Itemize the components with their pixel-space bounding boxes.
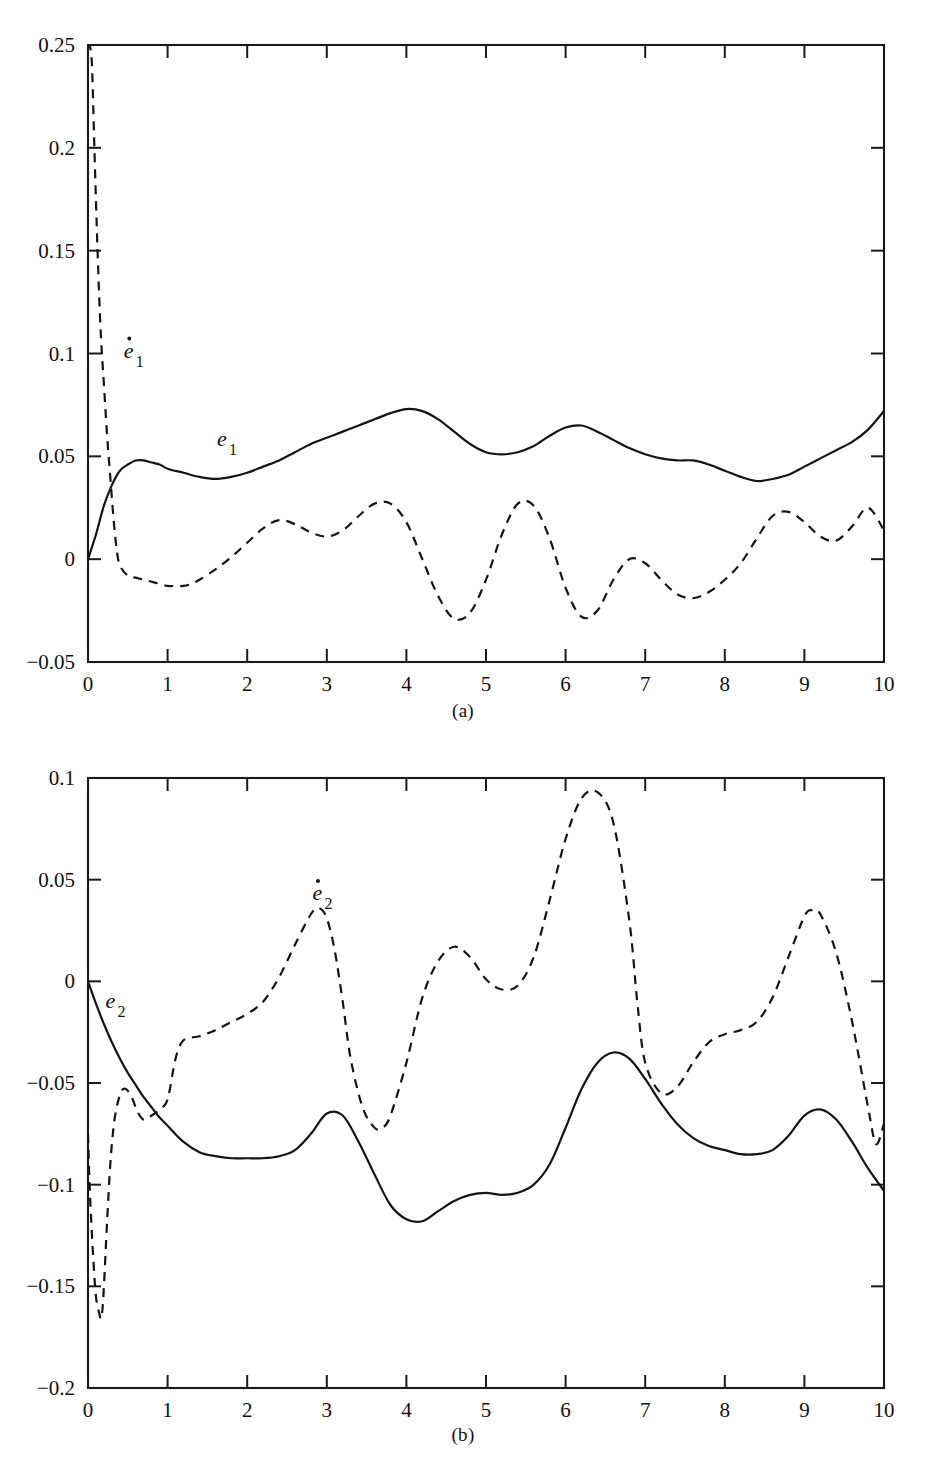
x-tick-label: 3 <box>322 1398 333 1422</box>
annotation-letter: e <box>124 338 134 363</box>
x-tick-label: 8 <box>720 1398 731 1422</box>
annotation-letter: e <box>217 426 227 451</box>
curve-e_2_dot <box>88 790 884 1319</box>
curve-annotation-e_1_dot: e1 <box>124 337 144 370</box>
x-tick-label: 2 <box>242 1398 253 1422</box>
x-tick-label: 2 <box>242 672 253 696</box>
x-tick-label: 8 <box>720 672 731 696</box>
curve-annotation-e_1: e1 <box>217 426 237 458</box>
x-tick-label: 1 <box>162 1398 173 1422</box>
y-tick-label: 0.1 <box>49 766 75 790</box>
x-tick-label: 6 <box>560 1398 571 1422</box>
y-tick-label: −0.05 <box>26 650 75 674</box>
annotation-letter: e <box>106 988 116 1013</box>
annotation-overdot-icon <box>127 337 131 341</box>
x-tick-label: 1 <box>162 672 173 696</box>
annotation-subscript: 1 <box>136 353 144 370</box>
y-tick-label: 0.15 <box>38 239 75 263</box>
x-tick-label: 5 <box>481 1398 492 1422</box>
y-tick-label: 0 <box>65 969 76 993</box>
y-tick-label: 0.05 <box>38 868 75 892</box>
plot-a-svg: 012345678910−0.0500.050.10.150.20.25e1e1 <box>0 0 926 700</box>
y-tick-label: −0.05 <box>26 1071 75 1095</box>
curve-e_1_dot <box>88 43 884 619</box>
x-tick-label: 10 <box>874 672 895 696</box>
x-tick-label: 9 <box>799 1398 810 1422</box>
plot-panel-a: 012345678910−0.0500.050.10.150.20.25e1e1 <box>0 0 926 740</box>
x-tick-label: 4 <box>401 1398 412 1422</box>
x-tick-label: 7 <box>640 1398 651 1422</box>
x-tick-label: 7 <box>640 672 651 696</box>
x-tick-label: 9 <box>799 672 810 696</box>
panel-b-caption: (b) <box>0 1424 926 1446</box>
x-tick-label: 0 <box>83 1398 94 1422</box>
x-tick-label: 10 <box>874 1398 895 1422</box>
y-tick-label: 0.1 <box>49 342 75 366</box>
y-tick-label: 0.05 <box>38 444 75 468</box>
plot-frame <box>88 45 884 662</box>
plot-panel-b: 012345678910−0.2−0.15−0.1−0.0500.050.1e2… <box>0 733 926 1466</box>
curve-e_1 <box>88 409 884 559</box>
figure-container: 012345678910−0.0500.050.10.150.20.25e1e1… <box>0 0 926 1466</box>
panel-a-caption: (a) <box>0 700 926 722</box>
x-tick-label: 3 <box>322 672 333 696</box>
annotation-overdot-icon <box>316 879 320 883</box>
x-tick-label: 0 <box>83 672 94 696</box>
curve-annotation-e_2: e2 <box>106 988 126 1020</box>
curve-annotation-e_2_dot: e2 <box>312 879 332 912</box>
y-tick-label: −0.15 <box>26 1274 75 1298</box>
y-tick-label: −0.2 <box>37 1376 75 1400</box>
x-tick-label: 6 <box>560 672 571 696</box>
x-tick-label: 5 <box>481 672 492 696</box>
annotation-letter: e <box>312 880 322 905</box>
plot-frame <box>88 778 884 1388</box>
y-tick-label: 0 <box>65 547 76 571</box>
y-tick-label: −0.1 <box>37 1173 75 1197</box>
x-tick-label: 4 <box>401 672 412 696</box>
y-tick-label: 0.2 <box>49 136 75 160</box>
annotation-subscript: 1 <box>229 441 237 458</box>
curve-e_2 <box>88 981 884 1222</box>
annotation-subscript: 2 <box>324 895 332 912</box>
y-tick-label: 0.25 <box>38 33 75 57</box>
plot-b-svg: 012345678910−0.2−0.15−0.1−0.0500.050.1e2… <box>0 733 926 1433</box>
annotation-subscript: 2 <box>118 1003 126 1020</box>
